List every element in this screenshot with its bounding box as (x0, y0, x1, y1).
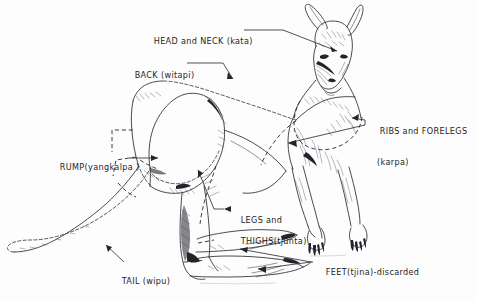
label-feet-text: FEET(tjina)-discarded (326, 267, 420, 277)
label-head-and-neck-text: HEAD and NECK (kata) (154, 36, 253, 46)
label-legs-and-thighs-line1: LEGS and (241, 215, 283, 225)
division-line-neck (294, 101, 362, 150)
leader-tail (106, 245, 124, 262)
label-head-and-neck: HEAD and NECK (kata) (142, 26, 253, 57)
label-tail: TAIL (wipu) (110, 266, 170, 297)
kangaroo-body-parts-diagram: HEAD and NECK (kata) BACK (witapi) RIBS … (0, 0, 477, 302)
leader-ribs-and-forelegs (288, 114, 365, 147)
label-ribs-and-forelegs-line2: (karpa) (368, 157, 467, 168)
label-tail-text: TAIL (wipu) (122, 276, 171, 286)
division-line-back-rump (112, 130, 133, 152)
label-legs-and-thighs: LEGS and THIGHS(tjunta) (229, 204, 307, 257)
label-legs-and-thighs-line2: THIGHS(tjunta) (241, 236, 307, 246)
division-line-foot-far (198, 240, 214, 243)
leader-legs-and-thighs (198, 170, 231, 212)
label-ribs-and-forelegs-line1: RIBS and FORELEGS (380, 126, 468, 136)
label-ribs-and-forelegs: RIBS and FORELEGS (karpa) (368, 115, 467, 189)
label-feet: FEET(tjina)-discarded (314, 257, 419, 288)
leader-head-and-neck (244, 30, 337, 52)
label-rump-text: RUMP(yangkalpa ) (60, 162, 140, 172)
label-back-text: BACK (witapi) (135, 70, 195, 80)
label-rump: RUMP(yangkalpa ) (48, 152, 139, 183)
label-back: BACK (witapi) (123, 60, 194, 91)
